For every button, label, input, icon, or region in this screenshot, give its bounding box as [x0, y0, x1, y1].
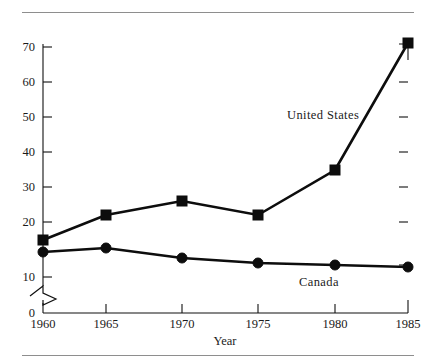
y-tick-label-40: 40	[0, 146, 35, 159]
series-markers-united-states	[38, 38, 413, 245]
x-tick-label-1975: 1975	[228, 318, 288, 331]
y-tick-label-30: 30	[0, 181, 35, 194]
x-tick-label-1970: 1970	[152, 318, 212, 331]
y-tick-label-70: 70	[0, 41, 35, 54]
x-tick-label-1965: 1965	[76, 318, 136, 331]
x-axis-title: Year	[175, 334, 275, 349]
x-tick-label-1960: 1960	[13, 318, 73, 331]
series-line-canada	[43, 248, 408, 267]
series-annotation-united-states: United States	[287, 108, 359, 123]
y-axis-break-icon	[30, 286, 56, 305]
y-ticks-right	[399, 82, 408, 265]
y-tick-label-50: 50	[0, 111, 35, 124]
x-tick-label-1980: 1980	[305, 318, 365, 331]
series-line-united-states	[43, 43, 408, 240]
y-tick-label-10: 10	[0, 271, 35, 284]
y-tick-label-20: 20	[0, 216, 35, 229]
x-tick-label-1985: 1985	[378, 318, 429, 331]
y-tick-label-60: 60	[0, 76, 35, 89]
x-ticks	[106, 304, 335, 313]
figure: 70 60 50 40 30 20 10 0 1960 1965 1970 19…	[0, 0, 429, 360]
chart-canvas	[0, 0, 429, 360]
series-markers-canada	[38, 243, 413, 272]
series-annotation-canada: Canada	[299, 275, 339, 290]
